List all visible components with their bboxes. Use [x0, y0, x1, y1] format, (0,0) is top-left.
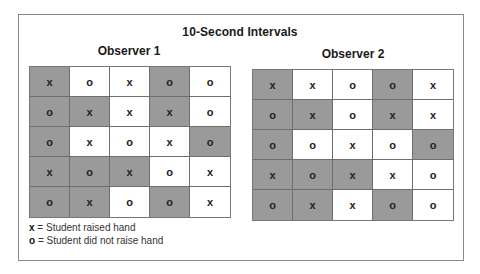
interval-cell: o — [150, 187, 190, 217]
interval-cell: o — [30, 97, 70, 127]
legend-symbol-o: o — [29, 235, 35, 246]
interval-cell: x — [253, 70, 293, 100]
interval-cell: o — [190, 127, 230, 157]
interval-cell: o — [293, 160, 333, 190]
legend-text-not-raised: = Student did not raise hand — [38, 235, 163, 246]
interval-cell: x — [30, 157, 70, 187]
interval-cell: o — [373, 70, 413, 100]
legend-item-raised: x = Student raised hand — [29, 222, 135, 233]
interval-cell: o — [30, 187, 70, 217]
interval-cell: o — [253, 190, 293, 220]
observer-2-grid: xxooxoxoxxooxooxoxxooxxoo — [252, 69, 454, 221]
interval-cell: x — [333, 160, 373, 190]
interval-cell: o — [150, 157, 190, 187]
interval-cell: x — [253, 160, 293, 190]
interval-cell: o — [333, 100, 373, 130]
interval-cell: x — [110, 67, 150, 97]
interval-cell: x — [110, 157, 150, 187]
legend-symbol-x: x — [29, 222, 35, 233]
interval-cell: x — [413, 70, 453, 100]
interval-cell: o — [413, 190, 453, 220]
interval-cell: o — [110, 127, 150, 157]
figure-title: 10-Second Intervals — [0, 25, 480, 39]
interval-cell: x — [70, 127, 110, 157]
interval-cell: x — [150, 97, 190, 127]
interval-cell: o — [190, 67, 230, 97]
interval-cell: x — [150, 127, 190, 157]
interval-cell: o — [70, 157, 110, 187]
interval-cell: x — [70, 187, 110, 217]
interval-cell: x — [70, 97, 110, 127]
observer-1-grid: xoxoooxxxooxoxoxoxoxoxoox — [29, 66, 231, 218]
interval-cell: x — [333, 130, 373, 160]
interval-cell: o — [110, 187, 150, 217]
interval-cell: x — [373, 100, 413, 130]
interval-cell: o — [253, 130, 293, 160]
interval-cell: o — [413, 160, 453, 190]
interval-cell: o — [253, 100, 293, 130]
legend-text-raised: = Student raised hand — [37, 222, 135, 233]
interval-cell: o — [190, 97, 230, 127]
interval-cell: x — [293, 190, 333, 220]
interval-cell: o — [150, 67, 190, 97]
interval-cell: x — [373, 160, 413, 190]
interval-cell: o — [293, 130, 333, 160]
observer-1-label: Observer 1 — [29, 44, 229, 58]
interval-cell: o — [70, 67, 110, 97]
interval-cell: o — [373, 130, 413, 160]
interval-cell: x — [190, 187, 230, 217]
interval-cell: x — [30, 67, 70, 97]
interval-cell: o — [373, 190, 413, 220]
interval-cell: x — [190, 157, 230, 187]
interval-cell: x — [293, 100, 333, 130]
interval-cell: o — [333, 70, 373, 100]
observer-2-label: Observer 2 — [253, 47, 453, 61]
legend-item-not-raised: o = Student did not raise hand — [29, 235, 163, 246]
interval-cell: o — [30, 127, 70, 157]
interval-cell: x — [110, 97, 150, 127]
interval-cell: x — [333, 190, 373, 220]
interval-cell: o — [413, 130, 453, 160]
interval-cell: x — [293, 70, 333, 100]
interval-cell: x — [413, 100, 453, 130]
